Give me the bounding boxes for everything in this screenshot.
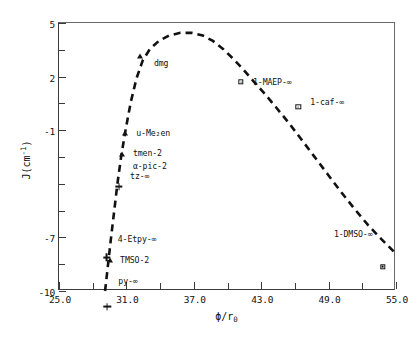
- data-point-marker-square[interactable]: [296, 104, 301, 109]
- x-axis-title-text: ϕ/r: [215, 311, 233, 322]
- data-point-label: u-Me₂en: [136, 128, 170, 138]
- x-tick-major: 49.0: [329, 282, 330, 289]
- y-tick-minor: [59, 264, 65, 265]
- plot-area: 52-1-7-1025.031.037.043.049.055.0 dmg1-M…: [58, 22, 395, 290]
- trend-line: [59, 23, 396, 291]
- data-point-marker-square[interactable]: [238, 79, 243, 84]
- y-axis-title-exponent: -1: [19, 146, 28, 155]
- y-tick-minor: [59, 157, 65, 158]
- data-point-label: TMSO-2: [120, 255, 149, 265]
- x-tick-label: 31.0: [116, 294, 138, 305]
- x-tick-label: 43.0: [251, 294, 273, 305]
- x-tick-minor: [362, 283, 363, 289]
- y-tick-major: -1: [59, 130, 66, 131]
- y-tick-major: -10: [59, 291, 66, 292]
- x-tick-major: 55.0: [396, 282, 397, 289]
- data-point-label: 1-DMSO-∞: [334, 229, 373, 239]
- x-tick-major: 37.0: [194, 282, 195, 289]
- x-tick-major: 25.0: [59, 282, 60, 289]
- y-tick-minor: [59, 184, 65, 185]
- y-tick-label: 5: [49, 19, 55, 30]
- y-tick-minor: [59, 211, 65, 212]
- x-tick-major: 43.0: [261, 282, 262, 289]
- x-tick-minor: [228, 283, 229, 289]
- data-point-marker-triangle[interactable]: [122, 130, 128, 135]
- y-tick-major: 2: [59, 77, 66, 78]
- x-tick-minor: [160, 283, 161, 289]
- data-point-marker-square[interactable]: [380, 264, 385, 269]
- data-point-marker-triangle[interactable]: [107, 257, 113, 262]
- data-point-marker-triangle[interactable]: [119, 152, 125, 157]
- y-axis-title: J(cm-1): [19, 140, 31, 179]
- x-axis-title-subscript: 0: [233, 315, 238, 324]
- x-tick-minor: [295, 283, 296, 289]
- y-tick-label: -1: [44, 126, 55, 137]
- x-axis-title: ϕ/r0: [58, 311, 395, 324]
- x-tick-label: 25.0: [49, 294, 71, 305]
- data-point-label: tmen-2: [133, 148, 162, 158]
- y-axis-title-text: J(cm: [21, 155, 32, 179]
- data-point-label: 1-MAEP-∞: [253, 77, 292, 87]
- y-axis-title-paren: ): [21, 140, 32, 146]
- y-tick-minor: [59, 103, 65, 104]
- data-point-marker-plus[interactable]: [104, 303, 111, 310]
- y-tick-major: 5: [59, 23, 66, 24]
- y-tick-minor: [59, 50, 65, 51]
- data-point-label: tz-∞: [130, 171, 149, 181]
- data-point-label: α-pic-2: [133, 161, 167, 171]
- x-tick-label: 49.0: [319, 294, 341, 305]
- data-point-label: py-∞: [118, 276, 137, 286]
- figure-canvas: J(cm-1) ϕ/r0 52-1-7-1025.031.037.043.049…: [0, 0, 418, 339]
- x-tick-label: 55.0: [386, 294, 408, 305]
- data-point-marker-plus[interactable]: [115, 183, 122, 190]
- x-tick-minor: [93, 283, 94, 289]
- data-point-label: 1-caf-∞: [310, 97, 344, 107]
- y-tick-label: 2: [49, 72, 55, 83]
- data-point-label: dmg: [154, 58, 169, 68]
- y-tick-label: -7: [44, 233, 55, 244]
- data-point-marker-triangle[interactable]: [137, 54, 143, 59]
- data-point-label: 4-Etpy-∞: [118, 234, 157, 244]
- y-tick-major: -7: [59, 237, 66, 238]
- x-tick-label: 37.0: [184, 294, 206, 305]
